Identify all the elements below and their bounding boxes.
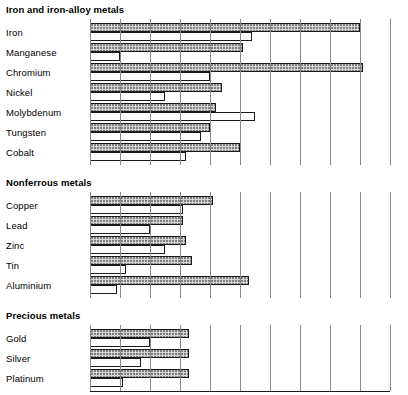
bar-hatched-tin <box>90 256 192 265</box>
gridline-1990 <box>180 19 181 165</box>
axis-baseline <box>90 391 390 392</box>
gridline-1980 <box>150 19 151 165</box>
bar-plain-zinc <box>90 245 165 254</box>
gridline-2300 <box>300 325 301 391</box>
gridline-2500 <box>360 19 361 165</box>
gridline-1970 <box>120 192 121 298</box>
bar-plain-nickel <box>90 92 165 101</box>
gridline-1990 <box>180 325 181 391</box>
gridline-2300 <box>300 192 301 298</box>
gridline-2200 <box>270 19 271 165</box>
gridline-2100 <box>240 19 241 165</box>
row-label-copper: Copper <box>6 200 38 211</box>
gridline-1970 <box>120 19 121 165</box>
gridline-2600 <box>390 19 391 165</box>
bar-plain-platinum <box>90 378 123 387</box>
gridline-2000 <box>210 325 211 391</box>
row-label-tungsten: Tungsten <box>6 127 46 138</box>
gridline-2500 <box>360 192 361 298</box>
gridline-1980 <box>150 192 151 298</box>
section-title-1: Nonferrous metals <box>6 177 92 188</box>
bar-plain-tungsten <box>90 132 201 141</box>
bar-hatched-iron <box>90 23 360 32</box>
bar-hatched-silver <box>90 349 189 358</box>
row-label-nickel: Nickel <box>6 87 32 98</box>
bar-hatched-manganese <box>90 43 243 52</box>
row-label-chromium: Chromium <box>6 67 51 78</box>
bar-hatched-gold <box>90 329 189 338</box>
gridline-2000 <box>210 19 211 165</box>
gridline-1960 <box>90 19 91 165</box>
bar-hatched-nickel <box>90 83 222 92</box>
gridline-2600 <box>390 192 391 298</box>
row-label-iron: Iron <box>6 27 23 38</box>
bar-plain-cobalt <box>90 152 186 161</box>
metal-reserves-bar-chart: Iron and iron-alloy metalsIronManganeseC… <box>0 0 408 395</box>
section-title-2: Precious metals <box>6 310 80 321</box>
gridline-2000 <box>210 192 211 298</box>
gridline-1990 <box>180 192 181 298</box>
plot-area <box>90 0 390 395</box>
gridline-1960 <box>90 192 91 298</box>
gridline-2600 <box>390 325 391 391</box>
gridline-1970 <box>120 325 121 391</box>
gridline-1960 <box>90 325 91 391</box>
gridline-2500 <box>360 325 361 391</box>
gridline-2400 <box>330 325 331 391</box>
gridline-2200 <box>270 325 271 391</box>
row-label-platinum: Platinum <box>6 373 44 384</box>
section-title-0: Iron and iron-alloy metals <box>6 4 124 15</box>
row-label-manganese: Manganese <box>6 47 57 58</box>
bar-hatched-molybdenum <box>90 103 216 112</box>
bar-plain-copper <box>90 205 183 214</box>
bar-plain-molybdenum <box>90 112 255 121</box>
gridline-2100 <box>240 325 241 391</box>
bar-plain-iron <box>90 32 252 41</box>
gridline-1980 <box>150 325 151 391</box>
gridline-2300 <box>300 19 301 165</box>
gridline-2100 <box>240 192 241 298</box>
row-label-tin: Tin <box>6 260 19 271</box>
row-label-lead: Lead <box>6 220 28 231</box>
bar-plain-silver <box>90 358 141 367</box>
bar-plain-aluminium <box>90 285 117 294</box>
row-label-molybdenum: Molybdenum <box>6 107 61 118</box>
row-label-aluminium: Aluminium <box>6 280 51 291</box>
bar-hatched-cobalt <box>90 143 240 152</box>
gridline-2400 <box>330 19 331 165</box>
gridline-2200 <box>270 192 271 298</box>
bar-hatched-chromium <box>90 63 363 72</box>
bar-hatched-copper <box>90 196 213 205</box>
bar-hatched-aluminium <box>90 276 249 285</box>
row-label-cobalt: Cobalt <box>6 147 34 158</box>
row-label-zinc: Zinc <box>6 240 24 251</box>
row-label-gold: Gold <box>6 333 26 344</box>
bar-hatched-lead <box>90 216 183 225</box>
bar-hatched-zinc <box>90 236 186 245</box>
row-label-silver: Silver <box>6 353 30 364</box>
bar-hatched-platinum <box>90 369 189 378</box>
bar-plain-manganese <box>90 52 120 61</box>
gridline-2400 <box>330 192 331 298</box>
